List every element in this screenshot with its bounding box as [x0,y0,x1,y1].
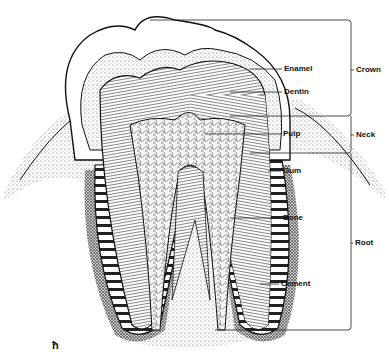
label-cement: Cement [281,279,310,289]
artist-signature: ħ [52,340,59,350]
label-pulp: Pulp [283,129,300,139]
tooth-illustration [0,0,389,361]
label-neck: Neck [356,130,375,140]
label-root: Root [355,238,373,248]
label-dentin: Dentin [284,87,309,97]
label-enamel: Enamel [284,64,312,74]
label-bone: Bone [283,213,303,223]
label-crown: Crown [356,65,381,75]
label-gum: Gum [283,166,301,176]
